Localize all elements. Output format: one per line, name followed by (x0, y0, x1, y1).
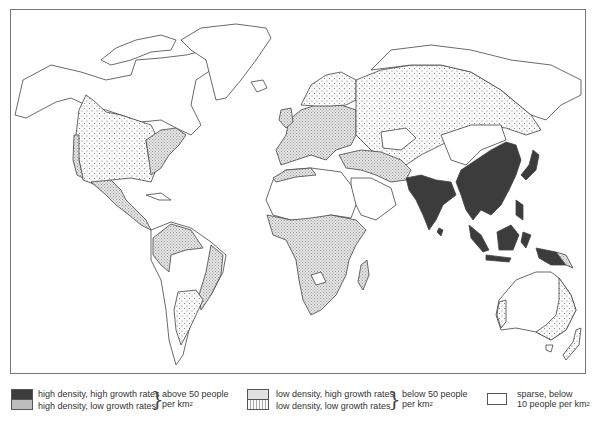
legend-range-line2: per km (162, 399, 190, 409)
region-caribbean (146, 193, 171, 200)
swatch-high-density-low-growth (11, 399, 33, 410)
region-sulawesi (521, 232, 531, 248)
world-map-svg (11, 10, 587, 375)
legend-label-high-density-low-growth: high density, low growth rates (38, 401, 156, 411)
region-arabia (351, 178, 396, 220)
legend-range-above-50: above 50 people per km2 (162, 389, 229, 409)
region-sumatra (469, 225, 489, 252)
region-tasmania (546, 345, 553, 352)
legend-sparse-line1: sparse, below (517, 389, 573, 399)
region-sri-lanka (437, 228, 443, 236)
legend-label-low-density-high-growth: low density, high growth rates (276, 389, 394, 399)
swatch-low-density-low-growth (247, 399, 269, 410)
region-borneo (497, 225, 519, 250)
region-scandinavia (301, 72, 356, 106)
legend-range-line1: below 50 people (402, 389, 468, 399)
region-java (486, 255, 511, 262)
legend-range-line1: above 50 people (162, 389, 229, 399)
region-philippines (516, 200, 523, 220)
legend-range-sup: 2 (430, 401, 433, 407)
legend-range-sup: 2 (190, 401, 193, 407)
legend-sparse-line2: 10 people per km (517, 399, 587, 409)
legend-range-line2: per km (402, 399, 430, 409)
region-japan (521, 150, 539, 180)
legend-label-high-density-high-growth: high density, high growth rates (38, 389, 159, 399)
swatch-sparse (487, 393, 507, 405)
region-sub-saharan-africa (267, 215, 366, 315)
world-map (10, 9, 586, 374)
region-mexico-central-america (91, 180, 151, 230)
region-argentina (174, 290, 203, 345)
region-new-zealand (563, 328, 581, 360)
region-iceland (251, 80, 267, 92)
region-south-asia (406, 175, 456, 230)
region-madagascar (358, 260, 369, 290)
legend-range-below-50: below 50 people per km2 (402, 389, 468, 409)
legend-brace: } (388, 389, 401, 409)
legend-sparse: sparse, below 10 people per km2 (517, 389, 590, 409)
legend: high density, high growth rates high den… (0, 380, 595, 423)
legend-label-low-density-low-growth: low density, low growth rates (276, 401, 390, 411)
region-sw-australia (497, 300, 506, 328)
legend-sparse-sup: 2 (587, 401, 590, 407)
